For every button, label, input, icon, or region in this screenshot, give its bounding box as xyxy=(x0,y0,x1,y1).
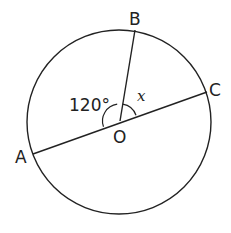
label-angle-boc: x xyxy=(137,87,146,105)
angle-arc-boc xyxy=(123,104,136,115)
radius-ob xyxy=(120,30,135,121)
label-o: O xyxy=(113,127,126,147)
label-c: C xyxy=(209,80,221,100)
label-a: A xyxy=(15,147,27,167)
circle-diagram: B C A O 120° x xyxy=(0,0,231,233)
label-b: B xyxy=(129,9,141,29)
circle xyxy=(27,30,211,214)
label-angle-aob: 120° xyxy=(69,95,110,115)
